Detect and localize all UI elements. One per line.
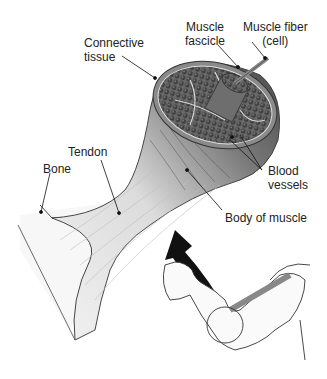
arm-illustration <box>163 262 310 360</box>
label-body-of-muscle: Body of muscle <box>225 211 307 225</box>
label-connective-tissue: Connective tissue <box>84 36 144 64</box>
label-line: vessels <box>268 178 308 192</box>
label-muscle-fascicle: Muscle fascicle <box>185 20 225 48</box>
label-line: Blood <box>268 164 308 178</box>
label-line: fascicle <box>185 34 225 48</box>
label-tendon: Tendon <box>68 145 107 159</box>
label-blood-vessels: Blood vessels <box>268 164 308 192</box>
label-line: tissue <box>84 50 144 64</box>
label-muscle-fiber: Muscle fiber (cell) <box>243 20 308 48</box>
label-line: Muscle fiber <box>243 20 308 34</box>
label-line: (cell) <box>243 34 308 48</box>
label-line: Muscle <box>185 20 225 34</box>
label-line: Connective <box>84 36 144 50</box>
label-bone: Bone <box>43 162 71 176</box>
